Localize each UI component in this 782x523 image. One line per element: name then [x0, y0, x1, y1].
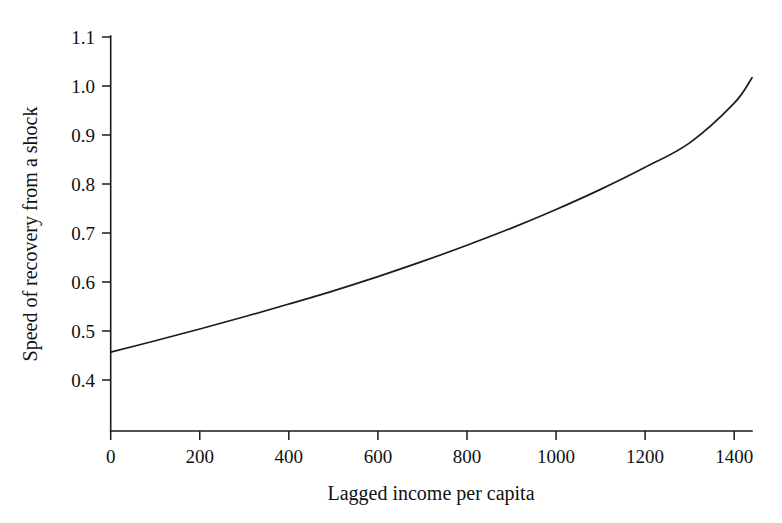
y-tick-label: 1.1: [71, 27, 95, 48]
y-axis-title: Speed of recovery from a shock: [19, 107, 42, 362]
y-tick-label: 0.7: [71, 223, 95, 244]
plot-svg: 0.40.50.60.70.80.91.01.1 020040060080010…: [0, 0, 782, 523]
x-tick-label: 600: [364, 446, 393, 467]
x-tick-label-group: 0200400600800100012001400: [106, 446, 753, 467]
y-tick-label: 1.0: [71, 76, 95, 97]
x-tick-label: 800: [453, 446, 482, 467]
x-tick-label: 1000: [537, 446, 575, 467]
x-tick-label: 0: [106, 446, 116, 467]
y-tick-label: 0.4: [71, 370, 95, 391]
x-axis-title: Lagged income per capita: [327, 482, 534, 505]
y-tick-label: 0.9: [71, 125, 95, 146]
chart-figure: 0.40.50.60.70.80.91.01.1 020040060080010…: [0, 0, 782, 523]
data-series-line: [111, 78, 752, 352]
x-tick-label: 400: [275, 446, 304, 467]
y-tick-group: [102, 37, 111, 380]
y-tick-label: 0.5: [71, 321, 95, 342]
x-tick-label: 1400: [715, 446, 753, 467]
x-tick-group: [111, 431, 734, 440]
x-tick-label: 1200: [626, 446, 664, 467]
x-tick-label: 200: [186, 446, 215, 467]
y-tick-label-group: 0.40.50.60.70.80.91.01.1: [71, 27, 95, 391]
y-tick-label: 0.8: [71, 174, 95, 195]
y-tick-label: 0.6: [71, 272, 95, 293]
